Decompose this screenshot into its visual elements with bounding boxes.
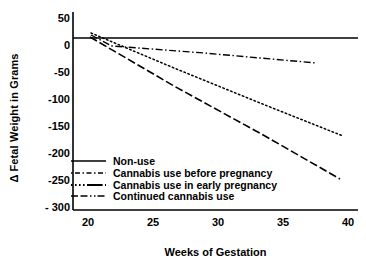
series-cannabis-before-pregnancy bbox=[91, 35, 316, 63]
legend-label-continued-use: Continued cannabis use bbox=[113, 191, 234, 202]
fetal-weight-line-chart: Δ Fetal Weight in Grams 50 0 -50 -100 -1… bbox=[0, 0, 366, 268]
legend-label-non-use: Non-use bbox=[113, 156, 155, 167]
legend-swatches bbox=[71, 161, 106, 196]
series-cannabis-early-pregnancy bbox=[91, 33, 343, 136]
legend-label-before-pregnancy: Cannabis use before pregnancy bbox=[113, 168, 272, 179]
plot-canvas bbox=[0, 0, 366, 268]
